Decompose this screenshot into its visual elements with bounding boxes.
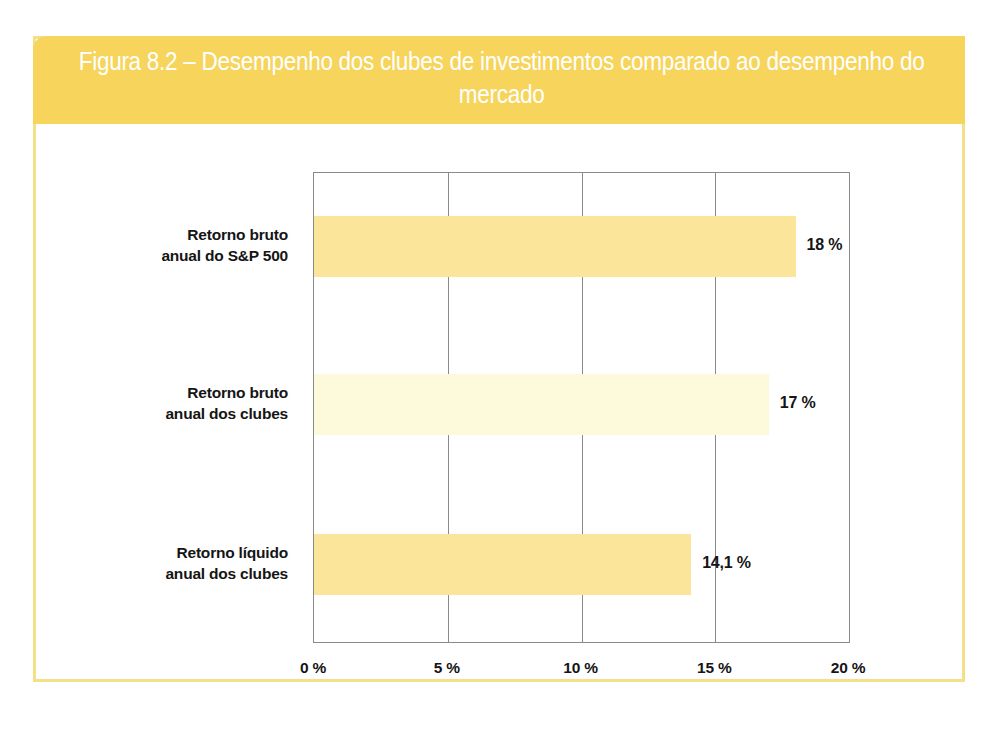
xtick-label-4: 20 %	[831, 659, 866, 677]
category-label-0-line-1: anual do S&P 500	[38, 245, 288, 266]
figure-header-banner: Figura 8.2 – Desempenho dos clubes de in…	[33, 36, 965, 124]
figure-title: Figura 8.2 – Desempenho dos clubes de in…	[61, 45, 942, 111]
category-label-2: Retorno líquido anual dos clubes	[38, 542, 288, 584]
xtick-label-0: 0 %	[300, 659, 326, 677]
plot-area	[313, 172, 850, 643]
category-label-2-line-1: anual dos clubes	[38, 563, 288, 584]
bar-value-label-2: 14,1 %	[702, 554, 751, 572]
category-label-1-line-0: Retorno bruto	[38, 382, 288, 403]
bar-value-label-1: 17 %	[780, 394, 816, 412]
bar-retorno-bruto-clubes	[314, 374, 769, 435]
category-label-2-line-0: Retorno líquido	[38, 542, 288, 563]
xtick-label-2: 10 %	[563, 659, 598, 677]
category-label-1-line-1: anual dos clubes	[38, 403, 288, 424]
category-label-0: Retorno bruto anual do S&P 500	[38, 224, 288, 266]
category-label-0-line-0: Retorno bruto	[38, 224, 288, 245]
xtick-label-1: 5 %	[434, 659, 460, 677]
bar-value-label-0: 18 %	[807, 236, 843, 254]
bar-retorno-bruto-sp500	[314, 216, 796, 277]
bar-retorno-liquido-clubes	[314, 534, 691, 595]
xtick-label-3: 15 %	[697, 659, 732, 677]
category-label-1: Retorno bruto anual dos clubes	[38, 382, 288, 424]
chart-body: Retorno bruto anual do S&P 500 Retorno b…	[36, 124, 962, 679]
